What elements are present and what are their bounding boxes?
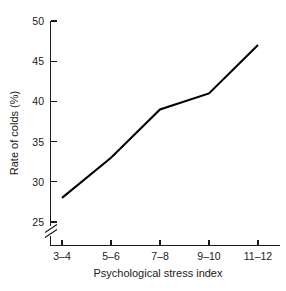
y-tick-label-40: 40 <box>32 95 44 107</box>
chart-figure: 50 45 40 35 30 25 3–4 5–6 7–8 9–10 11–12… <box>0 0 286 291</box>
y-tick-label-25: 25 <box>32 216 44 228</box>
x-tick-label-7-8: 7–8 <box>151 250 169 262</box>
data-series-line <box>62 45 258 198</box>
x-tick-label-5-6: 5–6 <box>102 250 120 262</box>
y-tick-label-50: 50 <box>32 15 44 27</box>
x-tick-label-3-4: 3–4 <box>53 250 71 262</box>
x-axis-title: Psychological stress index <box>93 267 223 279</box>
y-tick-label-30: 30 <box>32 176 44 188</box>
y-tick-label-35: 35 <box>32 136 44 148</box>
x-tick-label-9-10: 9–10 <box>197 250 221 262</box>
x-tick-label-11-12: 11–12 <box>244 250 273 262</box>
y-tick-label-45: 45 <box>32 55 44 67</box>
y-axis-title: Rate of colds (%) <box>8 91 20 175</box>
line-chart: 50 45 40 35 30 25 3–4 5–6 7–8 9–10 11–12… <box>0 0 286 291</box>
